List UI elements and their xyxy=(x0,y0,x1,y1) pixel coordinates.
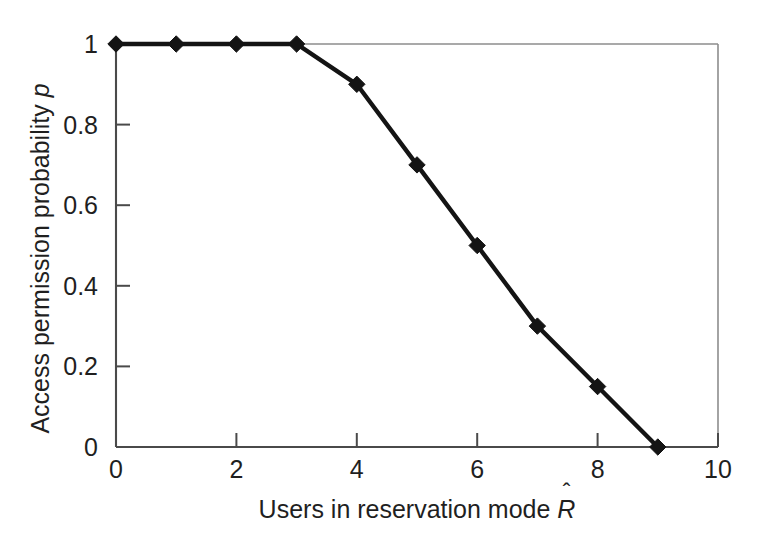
figure-canvas: 0 0.2 0.4 0.6 0.8 1 0 2 4 6 8 10 Access … xyxy=(0,0,763,541)
y-axis-title-symbol: p xyxy=(26,83,54,97)
x-tick-label-4: 4 xyxy=(350,457,364,482)
x-axis-title-text: Users in reservation mode xyxy=(259,495,558,523)
circumflex-accent-icon: ˆ xyxy=(563,481,571,504)
y-axis-title-text: Access permission probability xyxy=(26,97,54,433)
data-point-marker xyxy=(228,36,244,52)
data-point-marker xyxy=(168,36,184,52)
x-tick-label-0: 0 xyxy=(109,457,123,482)
x-tick-label-8: 8 xyxy=(591,457,605,482)
plot-frame xyxy=(116,44,718,447)
x-axis-title: Users in reservation mode ˆR xyxy=(116,495,718,524)
y-axis-ticks xyxy=(116,44,130,447)
data-point-marker xyxy=(108,36,124,52)
x-tick-label-10: 10 xyxy=(704,457,732,482)
x-axis-title-symbol-hat: ˆR xyxy=(557,495,575,524)
series-markers xyxy=(108,36,666,455)
y-axis-title: Access permission probability p xyxy=(26,49,55,469)
x-tick-label-6: 6 xyxy=(470,457,484,482)
x-tick-label-2: 2 xyxy=(229,457,243,482)
x-axis-ticks xyxy=(116,433,718,447)
series-line-access-permission xyxy=(116,44,658,447)
